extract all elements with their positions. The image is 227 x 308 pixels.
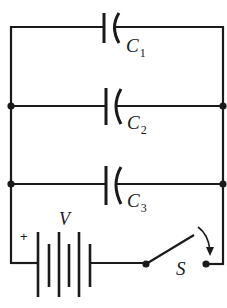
label-c2-letter: C [127,112,140,133]
switch-pivot-dot [142,260,149,267]
circuit-diagram [0,0,227,308]
junction-dot [7,180,14,187]
capacitor-c2 [11,88,223,125]
capacitor-c3 [11,166,223,205]
junction-dot [219,102,226,109]
switch-arrow-icon [206,247,214,256]
label-c3: C3 [127,191,147,210]
switch-contact-dot [202,260,209,267]
label-battery-v: V [59,210,70,228]
junction-dot [7,102,14,109]
label-c3-letter: C [127,190,140,211]
label-c2: C2 [127,113,147,132]
battery [11,232,146,297]
label-c3-subscript: 3 [141,201,147,215]
label-c1-letter: C [126,35,139,56]
junction-dot [219,180,226,187]
battery-plus-sign: + [20,230,28,243]
label-c1-subscript: 1 [140,46,146,60]
label-c2-subscript: 2 [141,123,147,137]
label-c1: C1 [126,36,146,55]
label-switch-s: S [176,259,186,278]
capacitor-c1 [10,13,224,43]
